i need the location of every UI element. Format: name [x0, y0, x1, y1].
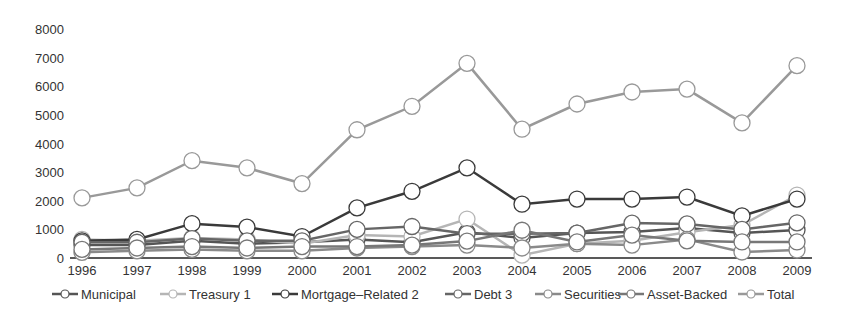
data-point-marker[interactable] [789, 191, 805, 207]
y-tick-label: 7000 [35, 51, 64, 66]
legend-marker-icon [747, 290, 755, 298]
y-tick-label: 6000 [35, 79, 64, 94]
legend-marker-icon [281, 290, 289, 298]
data-point-marker[interactable] [459, 211, 475, 227]
x-tick-label: 2008 [728, 263, 757, 278]
y-tick-label: 3000 [35, 165, 64, 180]
x-tick-label: 2003 [453, 263, 482, 278]
legend-marker-icon [169, 290, 177, 298]
x-tick-label: 1999 [233, 263, 262, 278]
line-chart: 010002000300040005000600070008000 199619… [0, 0, 853, 318]
x-tick-label: 2004 [508, 263, 537, 278]
data-point-marker[interactable] [74, 190, 90, 206]
data-point-marker[interactable] [459, 233, 475, 249]
data-point-marker[interactable] [514, 240, 530, 256]
data-point-marker[interactable] [679, 233, 695, 249]
data-point-marker[interactable] [349, 239, 365, 255]
x-tick-label: 2001 [343, 263, 372, 278]
x-tick-label: 1996 [68, 263, 97, 278]
data-point-marker[interactable] [514, 222, 530, 238]
legend-item[interactable]: Mortgage–Related 2 [272, 287, 419, 302]
legend-marker-icon [61, 290, 69, 298]
legend-item[interactable]: Total [738, 287, 795, 302]
x-tick-label: 2006 [618, 263, 647, 278]
data-point-marker[interactable] [239, 160, 255, 176]
data-point-marker[interactable] [294, 239, 310, 255]
data-point-marker[interactable] [404, 219, 420, 235]
data-point-marker[interactable] [129, 240, 145, 256]
data-point-marker[interactable] [404, 237, 420, 253]
data-point-marker[interactable] [404, 183, 420, 199]
legend-marker-icon [627, 290, 635, 298]
data-point-marker[interactable] [789, 58, 805, 74]
data-point-marker[interactable] [74, 241, 90, 257]
y-tick-label: 0 [57, 251, 64, 266]
data-point-marker[interactable] [514, 121, 530, 137]
legend-marker-icon [454, 290, 462, 298]
x-tick-label: 2002 [398, 263, 427, 278]
data-point-marker[interactable] [184, 239, 200, 255]
x-tick-label: 1997 [123, 263, 152, 278]
legend-marker-icon [544, 290, 552, 298]
legend-item[interactable]: Asset-Backed [618, 287, 727, 302]
data-point-marker[interactable] [789, 234, 805, 250]
x-tick-label: 1998 [178, 263, 207, 278]
data-point-marker[interactable] [569, 191, 585, 207]
legend-label: Debt 3 [474, 287, 512, 302]
data-point-marker[interactable] [459, 160, 475, 176]
legend-label: Total [767, 287, 795, 302]
data-point-marker[interactable] [624, 191, 640, 207]
data-point-marker[interactable] [459, 55, 475, 71]
y-tick-label: 5000 [35, 108, 64, 123]
x-axis: 1996199719981999200020012002200320042005… [68, 263, 812, 278]
legend-label: Asset-Backed [647, 287, 727, 302]
data-point-marker[interactable] [679, 81, 695, 97]
series-total [74, 55, 805, 206]
legend-label: Securities [564, 287, 622, 302]
data-point-marker[interactable] [349, 200, 365, 216]
x-tick-label: 2009 [783, 263, 812, 278]
data-point-marker[interactable] [734, 115, 750, 131]
data-point-marker[interactable] [184, 153, 200, 169]
data-point-marker[interactable] [404, 98, 420, 114]
legend-label: Treasury 1 [189, 287, 251, 302]
data-point-marker[interactable] [569, 234, 585, 250]
y-tick-label: 4000 [35, 137, 64, 152]
legend: MunicipalTreasury 1Mortgage–Related 2Deb… [52, 287, 795, 302]
data-point-marker[interactable] [624, 84, 640, 100]
y-axis: 010002000300040005000600070008000 [35, 22, 64, 266]
x-tick-label: 2000 [288, 263, 317, 278]
data-point-marker[interactable] [789, 215, 805, 231]
legend-item[interactable]: Securities [535, 287, 622, 302]
series-mortgage-related-2 [74, 160, 805, 249]
y-tick-label: 8000 [35, 22, 64, 37]
data-point-marker[interactable] [679, 189, 695, 205]
data-point-marker[interactable] [294, 176, 310, 192]
x-tick-label: 2005 [563, 263, 592, 278]
x-tick-label: 2007 [673, 263, 702, 278]
data-point-marker[interactable] [129, 180, 145, 196]
data-point-marker[interactable] [349, 221, 365, 237]
data-point-marker[interactable] [514, 196, 530, 212]
y-tick-label: 2000 [35, 194, 64, 209]
data-point-marker[interactable] [239, 240, 255, 256]
data-point-marker[interactable] [679, 216, 695, 232]
data-point-marker[interactable] [349, 122, 365, 138]
legend-label: Municipal [81, 287, 136, 302]
data-point-marker[interactable] [184, 216, 200, 232]
legend-item[interactable]: Treasury 1 [160, 287, 251, 302]
legend-item[interactable]: Debt 3 [445, 287, 512, 302]
data-point-marker[interactable] [624, 227, 640, 243]
data-point-marker[interactable] [734, 234, 750, 250]
data-point-marker[interactable] [569, 96, 585, 112]
y-tick-label: 1000 [35, 222, 64, 237]
legend-label: Mortgage–Related 2 [301, 287, 419, 302]
series-layer [74, 55, 805, 263]
legend-item[interactable]: Municipal [52, 287, 136, 302]
